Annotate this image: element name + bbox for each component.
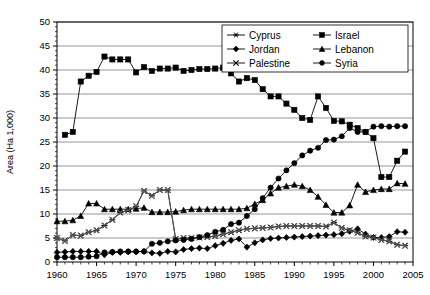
y-tick-label: 10: [39, 208, 50, 219]
data-point: [315, 145, 320, 150]
data-point: [300, 153, 305, 158]
y-tick-label: 45: [39, 40, 50, 51]
chart-container: 05101520253035404550 1960196519701975198…: [0, 0, 430, 295]
data-point: [94, 69, 99, 74]
data-point: [94, 254, 99, 259]
data-point: [165, 239, 170, 244]
x-tick-label: 1995: [323, 269, 344, 280]
data-point: [110, 57, 115, 62]
data-point: [213, 229, 218, 234]
data-point: [395, 158, 400, 163]
data-point: [268, 185, 273, 190]
data-point: [315, 94, 320, 99]
data-point: [236, 220, 241, 225]
data-point: [320, 33, 325, 38]
data-point: [292, 107, 297, 112]
data-point: [181, 68, 186, 73]
data-point: [331, 137, 336, 142]
data-point: [236, 79, 241, 84]
data-point: [86, 254, 91, 259]
data-point: [86, 73, 91, 78]
data-point: [165, 66, 170, 71]
data-point: [118, 57, 123, 62]
data-point: [284, 101, 289, 106]
data-point: [355, 129, 360, 134]
data-point: [276, 176, 281, 181]
data-point: [387, 174, 392, 179]
data-point: [252, 77, 257, 82]
legend-label: Lebanon: [335, 44, 374, 55]
data-point: [323, 137, 328, 142]
data-point: [205, 66, 210, 71]
data-point: [62, 255, 67, 260]
y-tick-label: 20: [39, 160, 50, 171]
legend-label: Palestine: [249, 58, 291, 69]
data-point: [62, 132, 67, 137]
data-point: [54, 255, 59, 260]
data-point: [205, 233, 210, 238]
data-point: [197, 234, 202, 239]
y-axis-ticks: [53, 22, 57, 262]
data-point: [323, 105, 328, 110]
data-point: [134, 70, 139, 75]
data-point: [78, 79, 83, 84]
data-point: [308, 117, 313, 122]
data-point: [284, 168, 289, 173]
y-tick-label: 35: [39, 88, 50, 99]
data-point: [78, 255, 83, 260]
data-point: [371, 136, 376, 141]
y-tick-label: 5: [45, 232, 50, 243]
line-chart: 05101520253035404550 1960196519701975198…: [0, 0, 430, 295]
data-point: [244, 213, 249, 218]
chart-legend: CyprusIsraelJordanLebanonPalestineSyria: [222, 25, 408, 72]
data-point: [268, 94, 273, 99]
data-point: [402, 149, 407, 154]
data-point: [252, 207, 257, 212]
x-tick-label: 2005: [402, 269, 423, 280]
data-point: [331, 118, 336, 123]
data-point: [387, 124, 392, 129]
x-axis-tick-labels: 1960196519701975198019851990199520002005: [46, 269, 423, 280]
data-point: [189, 67, 194, 72]
legend-label: Syria: [335, 58, 358, 69]
data-point: [347, 125, 352, 130]
data-point: [70, 255, 75, 260]
data-point: [228, 221, 233, 226]
data-point: [320, 61, 325, 66]
data-point: [197, 66, 202, 71]
y-tick-label: 15: [39, 184, 50, 195]
data-point: [276, 94, 281, 99]
x-tick-label: 1980: [205, 269, 226, 280]
data-point: [379, 124, 384, 129]
data-point: [118, 249, 123, 254]
data-point: [379, 174, 384, 179]
data-point: [102, 250, 107, 255]
y-tick-label: 50: [39, 16, 50, 27]
x-tick-label: 1990: [284, 269, 305, 280]
data-point: [110, 249, 115, 254]
data-point: [102, 54, 107, 59]
x-tick-label: 1975: [165, 269, 186, 280]
x-tick-label: 1960: [46, 269, 67, 280]
data-point: [141, 65, 146, 70]
legend-label: Cyprus: [249, 30, 281, 41]
data-point: [141, 249, 146, 254]
y-tick-label: 40: [39, 64, 50, 75]
legend-label: Jordan: [249, 44, 280, 55]
data-point: [126, 57, 131, 62]
data-point: [260, 196, 265, 201]
data-point: [149, 68, 154, 73]
data-point: [157, 66, 162, 71]
data-point: [260, 87, 265, 92]
data-point: [339, 134, 344, 139]
data-point: [134, 249, 139, 254]
x-tick-label: 1965: [86, 269, 107, 280]
y-tick-label: 30: [39, 112, 50, 123]
data-point: [213, 66, 218, 71]
data-point: [292, 161, 297, 166]
x-tick-label: 1985: [244, 269, 265, 280]
x-tick-label: 1970: [126, 269, 147, 280]
data-point: [300, 115, 305, 120]
y-tick-label: 25: [39, 136, 50, 147]
data-point: [149, 241, 154, 246]
